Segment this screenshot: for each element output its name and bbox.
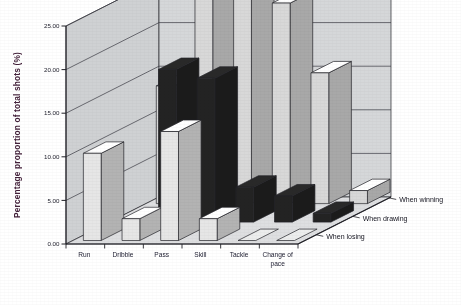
y-axis-tick-label: 25.00 [44, 22, 60, 29]
legend-series-label: When winning [399, 196, 443, 204]
y-axis-title: Percentage proportion of total shots (%) [12, 52, 22, 218]
x-axis-category-label: pace [271, 260, 286, 268]
x-axis-category-label: Pass [154, 251, 169, 258]
x-axis-category-label: Run [78, 251, 90, 258]
y-axis-tick-label: 15.00 [44, 109, 60, 116]
bar-front-face [311, 73, 329, 204]
legend-series-label: When losing [326, 233, 365, 241]
z-axis-tick [389, 198, 396, 200]
legend-series-label: When drawing [363, 215, 408, 223]
x-axis-category-label: Dribble [113, 251, 134, 258]
y-axis: 0.005.0010.0015.0020.0025.00 [44, 22, 66, 247]
bar-front-face [272, 3, 290, 204]
bar-side-face [178, 120, 201, 240]
bar-front-face [161, 132, 179, 241]
x-axis-category-label: Tackle [230, 251, 249, 258]
z-axis-tick [353, 216, 360, 218]
bar-front-face [83, 153, 101, 240]
x-axis-category-label: Change of [262, 251, 293, 259]
x-axis: RunDribblePassSkillTackleChange ofpace [66, 244, 298, 268]
bar [311, 61, 351, 203]
bar-side-face [251, 0, 274, 204]
bar-side-face [329, 61, 352, 203]
bar-chart-3d: 0.005.0010.0015.0020.0025.00Percentage p… [0, 0, 461, 305]
y-axis-tick-label: 20.00 [44, 66, 60, 73]
z-axis-tick [316, 235, 323, 237]
bar-front-face [122, 219, 140, 241]
y-axis-tick-label: 10.00 [44, 153, 60, 160]
bar-side-face [215, 67, 238, 222]
x-axis-category-label: Skill [194, 251, 207, 258]
bar-front-face [199, 219, 217, 241]
bar-front-face [313, 213, 331, 222]
bar [161, 120, 201, 240]
bar [83, 142, 123, 241]
y-axis-tick-label: 0.00 [47, 240, 60, 247]
y-axis-tick-label: 5.00 [47, 197, 60, 204]
bar [272, 0, 312, 204]
bar [234, 0, 274, 204]
bar-front-face [275, 196, 293, 222]
bar-side-face [290, 0, 313, 204]
bar [197, 67, 237, 222]
bar-side-face [101, 142, 124, 241]
chart-container: 0.005.0010.0015.0020.0025.00Percentage p… [0, 0, 461, 305]
